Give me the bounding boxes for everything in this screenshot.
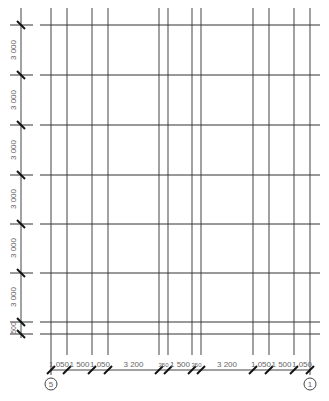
vertical-dimension-label: 3 000 (9, 89, 18, 110)
horizontal-dimension-label: 350 (191, 362, 202, 368)
vertical-dimension-label: 3 000 (9, 39, 18, 60)
horizontal-dimension-label: 1 050 (90, 360, 111, 369)
vertical-dimension-label: 500 (10, 322, 17, 334)
vertical-dimension-label: 3 000 (9, 188, 18, 209)
horizontal-dimension-label: 1 500 (69, 360, 90, 369)
horizontal-dimension-label: 1 050 (49, 360, 70, 369)
horizontal-dimension-label: 1 050 (251, 360, 272, 369)
horizontal-dimension-label: 1 050 (292, 360, 313, 369)
vertical-dimension-label: 3 000 (9, 139, 18, 160)
axis-bubbles: 51 (45, 378, 316, 390)
horizontal-dimension-chain: 1 0501 5001 0503 2003501 5003503 2001 05… (47, 360, 314, 374)
grid-drawing-canvas: 3 0003 0003 0003 0003 0003 000500 1 0501… (0, 0, 329, 401)
axis-bubble-label: 5 (49, 380, 54, 389)
vertical-grid-lines (51, 8, 310, 375)
axis-bubble-label: 1 (308, 380, 313, 389)
horizontal-dimension-label: 3 200 (217, 360, 238, 369)
horizontal-dimension-label: 1 500 (271, 360, 292, 369)
horizontal-dimension-label: 1 500 (170, 360, 191, 369)
horizontal-dimension-label: 3 200 (123, 360, 144, 369)
vertical-dimension-chain: 3 0003 0003 0003 0003 0003 000500 (9, 8, 25, 338)
horizontal-grid-lines (10, 25, 320, 334)
horizontal-dimension-label: 350 (158, 362, 169, 368)
vertical-dimension-label: 3 000 (9, 237, 18, 258)
vertical-dimension-label: 3 000 (9, 286, 18, 307)
